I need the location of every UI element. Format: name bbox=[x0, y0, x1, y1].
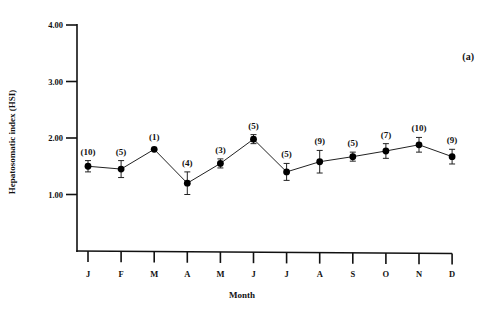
x-tick-label: M bbox=[150, 269, 158, 279]
sample-size-label: (9) bbox=[314, 136, 325, 146]
data-point-marker bbox=[416, 141, 423, 148]
sample-size-label: (3) bbox=[215, 145, 226, 155]
data-point-marker bbox=[118, 166, 125, 173]
sample-size-label: (10) bbox=[81, 147, 96, 157]
x-tick-label: F bbox=[118, 269, 123, 279]
x-tick-label: J bbox=[251, 269, 256, 279]
y-tick-label: 1.00 bbox=[48, 190, 63, 200]
data-point-marker bbox=[250, 136, 257, 143]
x-axis-title: Month bbox=[229, 290, 255, 300]
y-axis: 1.002.003.004.00 bbox=[48, 20, 77, 252]
data-point-marker bbox=[151, 146, 158, 153]
data-point-marker bbox=[184, 180, 191, 187]
y-tick-label: 3.00 bbox=[48, 77, 63, 87]
sample-size-label: (9) bbox=[447, 135, 458, 145]
data-point-marker bbox=[217, 160, 224, 167]
y-tick-label: 2.00 bbox=[48, 133, 63, 143]
data-series: (10)(5)(1)(4)(3)(5)(5)(9)(5)(7)(10)(9) bbox=[81, 121, 458, 195]
x-tick-label: J bbox=[86, 269, 91, 279]
x-tick-label: D bbox=[449, 269, 455, 279]
panel-label: (a) bbox=[462, 51, 474, 63]
data-point-marker bbox=[283, 169, 290, 176]
data-point-marker bbox=[383, 148, 390, 155]
x-tick-label: M bbox=[216, 269, 224, 279]
sample-size-label: (5) bbox=[281, 149, 292, 159]
x-axis: JFMAMJJASOND bbox=[76, 251, 455, 279]
data-point-marker bbox=[349, 153, 356, 160]
x-tick-label: J bbox=[284, 269, 289, 279]
y-axis-title: Hepatosomatic index (HSI) bbox=[7, 90, 17, 195]
x-tick-label: A bbox=[184, 269, 191, 279]
x-tick-label: A bbox=[317, 269, 324, 279]
y-tick-label: 4.00 bbox=[48, 20, 63, 30]
sample-size-label: (1) bbox=[149, 132, 160, 142]
sample-size-label: (5) bbox=[348, 138, 359, 148]
sample-size-label: (10) bbox=[412, 123, 427, 133]
sample-size-label: (7) bbox=[381, 130, 392, 140]
sample-size-label: (4) bbox=[182, 158, 193, 168]
x-axis-line bbox=[76, 251, 452, 254]
data-point-marker bbox=[85, 163, 92, 170]
hsi-line-chart: 1.002.003.004.00 JFMAMJJASOND (10)(5)(1)… bbox=[0, 0, 486, 318]
sample-size-label: (5) bbox=[248, 121, 259, 131]
x-tick-label: S bbox=[350, 269, 355, 279]
sample-size-label: (5) bbox=[116, 147, 127, 157]
x-tick-label: O bbox=[383, 269, 390, 279]
x-tick-label: N bbox=[416, 269, 423, 279]
series-line bbox=[88, 139, 452, 183]
data-point-marker bbox=[316, 158, 323, 165]
data-point-marker bbox=[449, 153, 456, 160]
